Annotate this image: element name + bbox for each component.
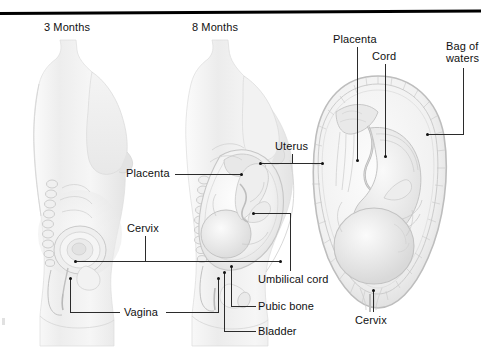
leader-dot-umbilical-cord — [252, 212, 255, 215]
label-placenta-top: Placenta — [333, 33, 377, 45]
leader-dot-vagina-left — [69, 277, 72, 280]
leader-bag-of-waters-horizontal — [428, 134, 464, 135]
stage-title-8-months: 8 Months — [192, 21, 238, 33]
leader-vagina-left-horizontal — [70, 312, 120, 313]
leader-bladder-riser — [224, 272, 225, 332]
label-placenta-left: Placenta — [126, 167, 170, 179]
top-divider-rule — [0, 9, 481, 15]
label-cord: Cord — [372, 50, 396, 62]
stage-title-3-months: 3 Months — [44, 21, 90, 33]
label-uterus: Uterus — [275, 140, 308, 152]
leader-placenta-top — [357, 47, 358, 160]
leader-umbilical-cord-horizontal — [254, 213, 291, 214]
leader-umbilical-cord-riser — [290, 213, 291, 271]
leader-dot-bladder — [223, 271, 226, 274]
label-bag-of-waters-line1: Bag of — [446, 40, 478, 53]
leader-dot-cord — [384, 155, 387, 158]
figure-3-months-artwork — [18, 38, 148, 348]
leader-vagina-right-horizontal — [166, 312, 219, 313]
leader-cervix-left-stub — [145, 236, 146, 261]
label-cervix-right: Cervix — [355, 314, 387, 326]
leader-vagina-right-riser — [218, 278, 219, 313]
label-pubic-bone: Pubic bone — [258, 300, 314, 312]
leader-placenta-left — [175, 174, 241, 175]
leader-dot-uterus-left — [259, 162, 262, 165]
label-vagina: Vagina — [124, 306, 158, 318]
leader-cervix-right — [373, 291, 374, 312]
leader-cord — [385, 64, 386, 156]
leader-cervix-horizontal — [76, 261, 281, 262]
leader-dot-cervix-right-figure — [279, 260, 282, 263]
label-cervix-left: Cervix — [127, 222, 159, 234]
leader-vagina-left-riser — [70, 278, 71, 313]
leader-bag-of-waters-vertical — [463, 68, 464, 135]
illustration-canvas: 3 Months 8 Months Placenta Cord Bag of w… — [0, 0, 493, 352]
label-umbilical-cord: Umbilical cord — [258, 273, 328, 285]
leader-dot-placenta-left — [240, 173, 243, 176]
edge-artifact — [2, 318, 5, 325]
leader-uterus-horizontal — [261, 163, 323, 164]
leader-bladder-horizontal — [224, 331, 256, 332]
label-bag-of-waters-line2: waters — [446, 52, 479, 65]
leader-dot-pubic-bone — [230, 265, 233, 268]
leader-pubic-bone-riser — [231, 266, 232, 307]
leader-dot-cervix-right — [372, 289, 375, 292]
leader-dot-uterus-right — [321, 162, 324, 165]
leader-dot-vagina-right — [217, 277, 220, 280]
leader-dot-placenta-top — [356, 159, 359, 162]
leader-dot-bag-of-waters — [426, 133, 429, 136]
leader-pubic-bone-horizontal — [231, 306, 256, 307]
leader-dot-cervix-left-figure — [74, 260, 77, 263]
label-bladder: Bladder — [258, 325, 297, 337]
uterus-detail-artwork — [312, 72, 454, 324]
